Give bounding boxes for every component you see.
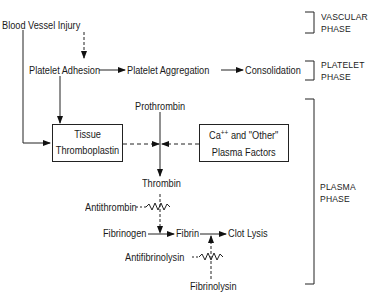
vascular-bracket [305, 12, 314, 33]
box-tissue-thromboplastin: Tissue Thromboplastin [52, 124, 123, 162]
node-fibrinogen: Fibrinogen [103, 228, 146, 239]
node-prothrombin: Prothrombin [135, 101, 185, 112]
node-fibrin: Fibrin [176, 228, 199, 239]
plasma-factors-label: Plasma Factors [212, 145, 276, 161]
node-antithrombin: Antithrombin [85, 202, 137, 213]
box-plasma-factors: Ca++ and "Other" Plasma Factors [199, 124, 289, 162]
phase-vascular: VASCULAR PHASE [321, 11, 368, 35]
injury-to-tissue-arrow [23, 30, 50, 143]
phase-plasma: PLASMA PHASE [320, 181, 356, 205]
node-clot-lysis: Clot Lysis [228, 228, 268, 239]
plasma-bracket [305, 99, 314, 284]
antithrombin-inhibit-icon [146, 203, 170, 210]
node-thrombin: Thrombin [142, 178, 181, 189]
node-consolidation: Consolidation [245, 65, 301, 76]
node-platelet-aggregation: Platelet Aggregation [127, 65, 209, 76]
tissue-label-2: Thromboplastin [56, 143, 119, 159]
ca-other-label: Ca++ and "Other" [209, 125, 278, 144]
phase-platelet: PLATELET PHASE [321, 59, 365, 83]
node-blood-vessel-injury: Blood Vessel Injury [2, 20, 80, 31]
platelet-bracket [305, 61, 314, 80]
node-antifibrinolysin: Antifibrinolysin [125, 252, 184, 263]
tissue-label-1: Tissue [74, 127, 101, 143]
node-fibrinolysin: Fibrinolysin [190, 281, 237, 292]
node-platelet-adhesion: Platelet Adhesion [29, 65, 100, 76]
